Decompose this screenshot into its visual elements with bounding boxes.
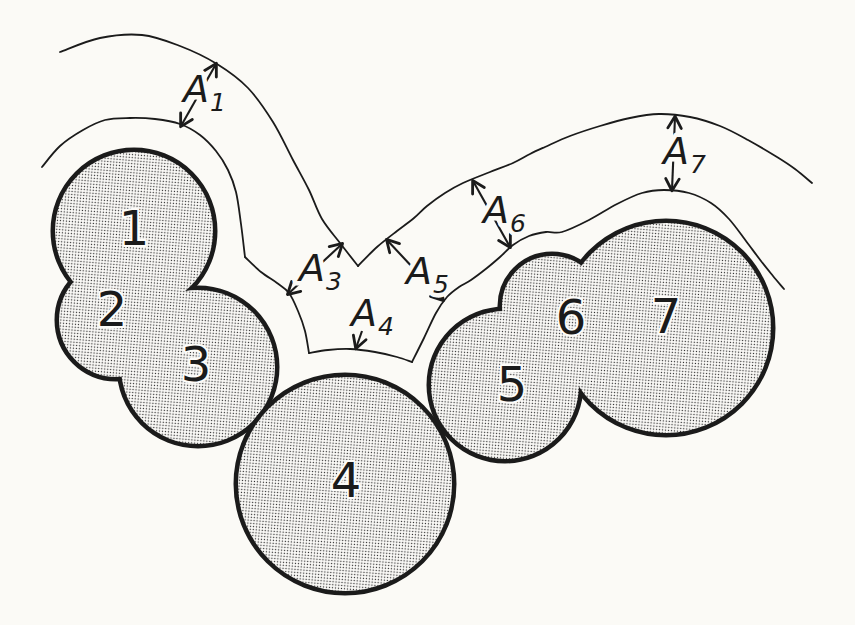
blob-number-3: 3 bbox=[181, 336, 212, 392]
figure-canvas: 1234567 A1A3A4A5A6A7 bbox=[0, 0, 855, 625]
inner-contour-segment-3 bbox=[309, 349, 412, 362]
annotation-label-A5: A5 bbox=[403, 249, 449, 299]
blob-cluster-1-2-3 bbox=[55, 152, 275, 444]
blob-number-2: 2 bbox=[97, 281, 128, 337]
annotation-label-A4: A4 bbox=[348, 291, 394, 341]
outer-contour-segment-2 bbox=[358, 114, 812, 266]
annotation-label-A3: A3 bbox=[296, 246, 342, 296]
annotation-label-A7: A7 bbox=[660, 129, 706, 179]
blob-number-6: 6 bbox=[556, 289, 587, 345]
isophote-blob-diagram: 1234567 A1A3A4A5A6A7 bbox=[0, 0, 855, 625]
blob-number-5: 5 bbox=[497, 356, 528, 412]
blob-number-7: 7 bbox=[651, 288, 682, 344]
blob-cluster-5-6-7 bbox=[431, 223, 771, 459]
blob-number-1: 1 bbox=[119, 200, 150, 256]
annotation-label-A6: A6 bbox=[480, 188, 526, 238]
blob-number-4: 4 bbox=[331, 452, 362, 508]
annotation-label-A1: A1 bbox=[180, 67, 226, 117]
